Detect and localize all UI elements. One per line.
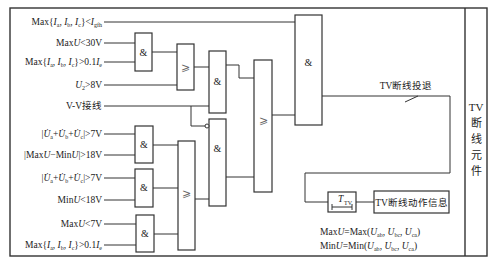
svg-text:&: & xyxy=(140,47,148,58)
input-label-9: MinU<18V xyxy=(58,195,103,205)
and-gate-4: & xyxy=(135,126,153,163)
svg-text:TV断线动作信息: TV断线动作信息 xyxy=(375,197,448,208)
input-label-7: |MaxU−MinU|>18V xyxy=(24,150,102,160)
input-label-1: Max{Ia, Ib, Ic}<Igfh xyxy=(32,17,102,28)
or-gate-2: ⩾ xyxy=(178,141,195,250)
or-gate-1: ⩾ xyxy=(177,44,194,90)
input-label-11: Max{Ia, Ib, Ic}>0.1Ie xyxy=(25,240,102,251)
svg-text:线: 线 xyxy=(471,132,482,145)
and-gate-2: & xyxy=(209,51,226,113)
inverter-bubble xyxy=(205,124,209,128)
svg-text:&: & xyxy=(140,139,148,150)
svg-text:⩾: ⩾ xyxy=(259,114,268,126)
note-maxu: MaxU=Max(Uab, Ubc, Uca) xyxy=(320,227,420,238)
tv-exit-switch-label: TV断线投退 xyxy=(380,80,433,91)
svg-text:&: & xyxy=(140,182,148,193)
note-minu: MinU=Min(Uab, Ubc, Uca) xyxy=(320,241,417,252)
input-label-8: |U̇a+U̇b+U̇c|>7V xyxy=(42,173,103,184)
svg-text:⩾: ⩾ xyxy=(182,187,191,199)
svg-text:&: & xyxy=(214,76,222,87)
and-gate-3: & xyxy=(205,119,226,206)
svg-text:元: 元 xyxy=(471,149,482,161)
action-info-block: TV断线动作信息 xyxy=(374,191,449,213)
svg-text:TV: TV xyxy=(344,200,353,206)
and-gate-1: & xyxy=(135,33,152,71)
svg-text:件: 件 xyxy=(471,165,482,177)
svg-text:断: 断 xyxy=(471,116,482,129)
svg-text:⩾: ⩾ xyxy=(181,61,190,73)
input-label-2: MaxU<30V xyxy=(56,38,102,48)
side-title: TV 断 线 元 件 xyxy=(469,101,484,177)
input-label-3: Max{Ia, Ib, Ic}>0.1Ie xyxy=(25,57,102,68)
and-gate-5: & xyxy=(135,169,153,207)
svg-text:TV: TV xyxy=(469,101,484,113)
input-label-6: |U̇a+U̇b+U̇c|>7V xyxy=(42,129,103,140)
svg-text:&: & xyxy=(305,57,313,68)
tv-disconnection-logic-diagram: Max{Ia, Ib, Ic}<Igfh MaxU<30V Max{Ia, Ib… xyxy=(0,0,497,265)
svg-text:&: & xyxy=(214,143,222,154)
input-label-4: U2>8V xyxy=(75,80,102,91)
input-label-10: MaxU<7V xyxy=(61,219,102,229)
main-and-gate: & xyxy=(295,15,322,125)
input-labels: Max{Ia, Ib, Ic}<Igfh MaxU<30V Max{Ia, Ib… xyxy=(24,17,102,251)
or-gate-3: ⩾ xyxy=(254,60,272,192)
input-label-5: V-V接线 xyxy=(66,100,102,111)
and-gate-6: & xyxy=(136,215,154,252)
timer-block: T TV xyxy=(328,192,356,212)
svg-text:&: & xyxy=(141,228,149,239)
